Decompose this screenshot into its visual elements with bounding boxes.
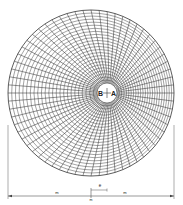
grid-radial-line — [67, 14, 104, 84]
grid-radial-line — [115, 40, 155, 86]
grid-radial-line — [18, 54, 98, 88]
grid-radial-line — [67, 103, 104, 173]
arrow-left-icon — [8, 195, 12, 197]
grid-radial-line — [18, 98, 98, 132]
grid-radial-line — [27, 40, 99, 86]
grid-radials — [8, 10, 174, 176]
grid-radial-line — [27, 99, 99, 145]
label-b: B — [98, 90, 103, 97]
grid-radial-line — [115, 99, 160, 140]
grid-radial-line — [12, 69, 98, 90]
grid-radial-line — [32, 100, 100, 152]
grid-radial-line — [115, 47, 160, 88]
grid-radial-line — [91, 10, 107, 83]
arrow-right-icon — [170, 195, 174, 197]
center-mark-label: m — [90, 198, 93, 202]
grid-radial-line — [22, 47, 99, 88]
right-span-label: m — [123, 190, 127, 195]
grid-radial-line — [91, 103, 107, 176]
grid-radial-line — [12, 96, 98, 117]
label-a: A — [111, 90, 116, 97]
eccentricity-label: e — [99, 183, 102, 188]
left-span-label: m — [55, 190, 59, 195]
grid-radial-line — [115, 99, 155, 145]
grid-radial-line — [22, 99, 99, 140]
grid-radial-line — [32, 34, 100, 86]
eccentric-polar-grid-diagram: B A e m m m — [0, 0, 183, 205]
